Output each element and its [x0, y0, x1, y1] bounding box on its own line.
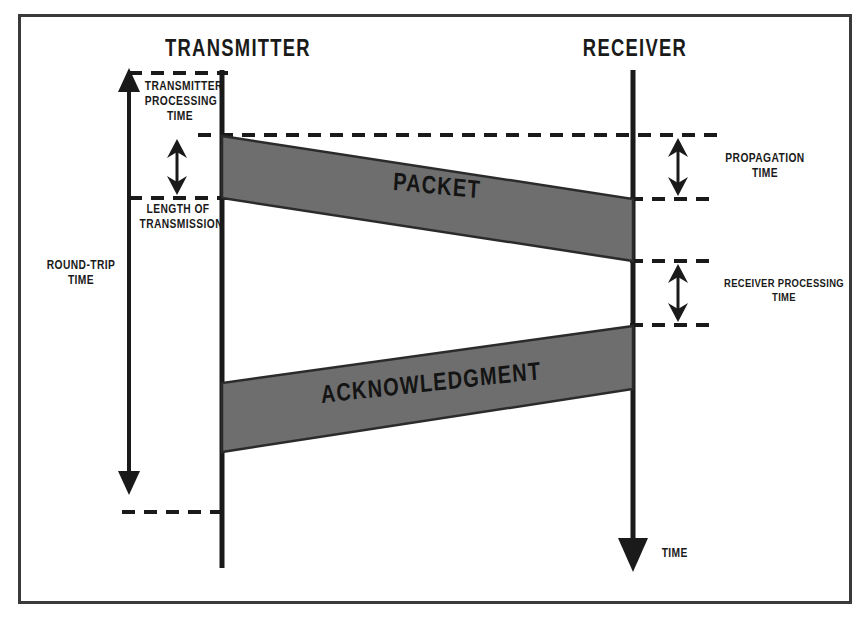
label-propagation-time: PROPAGATION TIME [714, 151, 816, 181]
length-of-transmission-arrow [167, 139, 187, 195]
label-round-trip-time: ROUND-TRIP TIME [42, 258, 121, 288]
round-trip-time-arrow [118, 68, 140, 495]
propagation-time-arrow [668, 138, 688, 196]
label-time-axis: TIME [662, 546, 705, 561]
time-arrowhead [618, 538, 648, 572]
header-transmitter: TRANSMITTER [165, 35, 285, 62]
label-receiver-processing-time: RECEIVER PROCESSING TIME [709, 277, 858, 304]
label-length-of-transmission: LENGTH OF TRANSMISSION [139, 202, 216, 232]
header-receiver: RECEIVER [579, 35, 691, 62]
receiver-processing-time-arrow [668, 264, 688, 322]
diagram-root: TRANSMITTER RECEIVER TRANSMITTER PROCESS… [0, 0, 865, 626]
label-transmitter-processing-time: TRANSMITTER PROCESSING TIME [145, 79, 216, 123]
timing-diagram-canvas [0, 0, 865, 626]
